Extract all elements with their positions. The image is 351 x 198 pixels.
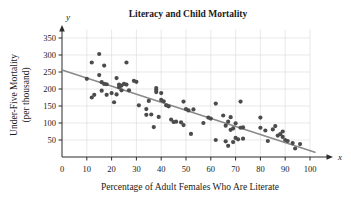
x-tick-label: 20 xyxy=(107,164,116,174)
x-tick-label: 50 xyxy=(182,164,191,174)
data-point xyxy=(189,132,193,136)
data-point xyxy=(154,90,158,94)
data-point xyxy=(293,146,297,150)
data-point xyxy=(97,52,101,56)
x-tick-label: 40 xyxy=(157,164,166,174)
x-axis-ticks: 0102030405060708090100 xyxy=(60,157,317,174)
data-point xyxy=(209,116,213,120)
data-point xyxy=(273,124,277,128)
x-tick-label: 70 xyxy=(231,164,240,174)
data-point xyxy=(127,88,131,92)
data-point xyxy=(226,144,230,148)
data-point xyxy=(221,113,225,117)
data-point xyxy=(241,137,245,141)
y-axis-caption: Under-Five Mortality (per thousand) xyxy=(9,54,32,136)
x-axis-arrowhead xyxy=(327,154,334,160)
data-point xyxy=(214,138,218,142)
data-point xyxy=(167,104,171,108)
y-axis-ticks: 50100150200250300350 xyxy=(43,33,62,145)
data-point xyxy=(105,82,109,86)
y-tick-label: 250 xyxy=(43,67,56,77)
data-point xyxy=(191,107,195,111)
data-point xyxy=(149,112,153,116)
data-point xyxy=(105,93,109,97)
data-point xyxy=(258,115,262,119)
data-point xyxy=(162,99,166,103)
data-point xyxy=(157,115,161,119)
axes xyxy=(59,25,333,160)
data-point xyxy=(226,120,230,124)
chart-title: Literacy and Child Mortality xyxy=(129,9,248,19)
data-point xyxy=(159,91,163,95)
x-axis-caption: Percentage of Adult Females Who Are Lite… xyxy=(101,182,279,192)
data-point xyxy=(224,139,228,143)
chart-figure: Literacy and Child Mortality y x 5010015… xyxy=(0,0,351,198)
x-tick-label: 30 xyxy=(132,164,141,174)
data-point xyxy=(231,126,235,130)
data-point xyxy=(114,76,118,80)
data-point xyxy=(147,99,151,103)
data-point xyxy=(298,142,302,146)
data-point xyxy=(114,92,118,96)
x-tick-label: 90 xyxy=(281,164,290,174)
x-tick-label: 60 xyxy=(207,164,216,174)
data-point xyxy=(92,93,96,97)
y-tick-label: 350 xyxy=(43,33,56,43)
data-point xyxy=(291,141,295,145)
data-point xyxy=(186,108,190,112)
scatter-plot-svg: Literacy and Child Mortality y x 5010015… xyxy=(0,0,351,198)
data-point xyxy=(181,123,185,127)
x-tick-label: 10 xyxy=(83,164,92,174)
data-point xyxy=(110,91,114,95)
data-point xyxy=(144,113,148,117)
x-tick-label: 100 xyxy=(304,164,317,174)
data-point xyxy=(258,126,262,130)
data-point xyxy=(144,107,148,111)
data-point xyxy=(85,77,89,81)
data-point xyxy=(100,89,104,93)
data-points-group xyxy=(85,52,302,151)
x-tick-label: 80 xyxy=(256,164,265,174)
data-point xyxy=(271,127,275,131)
data-point xyxy=(119,88,123,92)
y-axis-arrowhead xyxy=(59,25,65,32)
data-point xyxy=(174,120,178,124)
data-point xyxy=(124,60,128,64)
data-point xyxy=(238,99,242,103)
y-tick-label: 150 xyxy=(43,101,56,111)
data-point xyxy=(201,121,205,125)
y-axis-caption-line1: Under-Five Mortality xyxy=(9,54,19,136)
y-tick-label: 100 xyxy=(43,118,56,128)
data-point xyxy=(241,125,245,129)
data-point xyxy=(124,82,128,86)
y-axis-caption-line2: (per thousand) xyxy=(21,67,32,122)
data-point xyxy=(214,102,218,106)
data-point xyxy=(112,100,116,104)
data-point xyxy=(281,129,285,133)
data-point xyxy=(236,137,240,141)
data-point xyxy=(97,73,101,77)
vertical-gridlines xyxy=(87,30,310,158)
data-point xyxy=(263,128,267,132)
data-point xyxy=(90,60,94,64)
data-point xyxy=(137,103,141,107)
data-point xyxy=(266,139,270,143)
data-point xyxy=(231,140,235,144)
y-axis-symbol: y xyxy=(65,12,70,22)
data-point xyxy=(229,115,233,119)
y-tick-label: 50 xyxy=(48,135,57,145)
x-tick-label: 0 xyxy=(60,164,64,174)
y-tick-label: 300 xyxy=(43,50,56,60)
data-point xyxy=(152,125,156,129)
data-point xyxy=(134,80,138,84)
y-tick-label: 200 xyxy=(43,84,56,94)
x-axis-symbol: x xyxy=(337,152,342,162)
data-point xyxy=(181,99,185,103)
data-point xyxy=(224,124,228,128)
data-point xyxy=(102,63,106,67)
data-point xyxy=(286,139,290,143)
data-point xyxy=(234,121,238,125)
